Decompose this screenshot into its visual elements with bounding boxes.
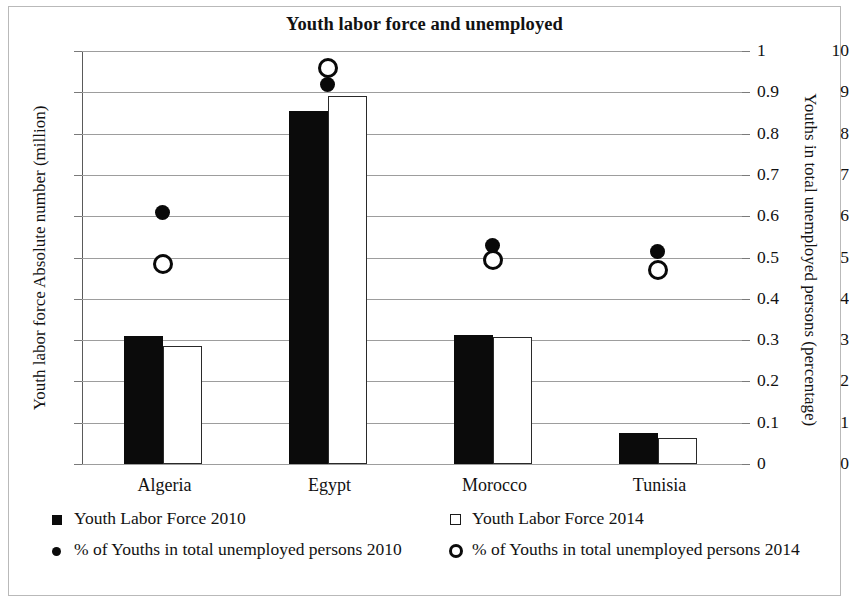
data-point-hollow-circle <box>153 254 173 274</box>
y-axis-left-tick-label: 8 <box>783 125 849 143</box>
chart-legend: Youth Labor Force 2010 Youth Labor Force… <box>52 508 812 592</box>
bar <box>454 335 493 464</box>
chart-figure: Youth labor force and unemployed Youth l… <box>0 0 849 605</box>
bar <box>124 336 163 464</box>
y-axis-right-tick-label: 0.7 <box>757 166 779 184</box>
y-axis-right-tick-label: 0.6 <box>757 207 779 225</box>
y-axis-left-title: Youth labor force Absolute number (milli… <box>30 48 50 468</box>
y-axis-right-tick <box>742 423 750 424</box>
y-axis-right-tick <box>742 381 750 382</box>
y-axis-right-tick <box>742 51 750 52</box>
bar <box>328 96 367 464</box>
y-axis-right-tick <box>742 92 750 93</box>
x-axis-category-label: Algeria <box>85 475 245 496</box>
y-axis-left-tick-label: 2 <box>783 372 849 390</box>
y-axis-left-tick-label: 0 <box>783 455 849 473</box>
y-axis-right-tick-label: 0.3 <box>757 331 779 349</box>
y-axis-left-tick <box>74 134 82 135</box>
y-axis-left-tick-label: 3 <box>783 331 849 349</box>
gridline <box>82 51 742 52</box>
y-axis-left-tick <box>74 464 82 465</box>
y-axis-left-tick <box>74 340 82 341</box>
y-axis-right-tick-label: 0.1 <box>757 414 779 432</box>
y-axis-left-tick <box>74 175 82 176</box>
legend-item-percent-2014: % of Youths in total unemployed persons … <box>450 539 800 560</box>
y-axis-left-tick <box>74 381 82 382</box>
bar <box>658 438 697 464</box>
y-axis-right-tick-label: 0.4 <box>757 290 779 308</box>
y-axis-right-tick <box>742 340 750 341</box>
gridline <box>82 134 742 135</box>
y-axis-right-tick-label: 0.5 <box>757 249 779 267</box>
gridline <box>82 464 742 465</box>
legend-label: % of Youths in total unemployed persons … <box>74 539 402 560</box>
gridline <box>82 258 742 259</box>
y-axis-right-tick-label: 0.8 <box>757 125 779 143</box>
legend-label: % of Youths in total unemployed persons … <box>472 539 800 560</box>
y-axis-left-tick <box>74 423 82 424</box>
y-axis-left-tick-label: 1 <box>783 414 849 432</box>
data-point-filled-circle <box>485 238 500 253</box>
data-point-filled-circle <box>650 244 665 259</box>
data-point-hollow-circle <box>318 58 338 78</box>
y-axis-right-tick-label: 1 <box>757 42 766 60</box>
data-point-hollow-circle <box>648 260 668 280</box>
gridline <box>82 216 742 217</box>
gridline <box>82 340 742 341</box>
y-axis-right-tick <box>742 175 750 176</box>
data-point-filled-circle <box>320 77 335 92</box>
y-axis-right-tick <box>742 258 750 259</box>
y-axis-right-tick-label: 0.9 <box>757 83 779 101</box>
x-axis-category-label: Egypt <box>250 475 410 496</box>
y-axis-left-tick-label: 6 <box>783 207 849 225</box>
y-axis-left-tick-label: 5 <box>783 249 849 267</box>
y-axis-right-tick-label: 0 <box>757 455 766 473</box>
x-axis-category-label: Tunisia <box>580 475 740 496</box>
gridline <box>82 92 742 93</box>
plot-area <box>82 51 742 464</box>
y-axis-left-tick <box>74 92 82 93</box>
legend-item-percent-2010: % of Youths in total unemployed persons … <box>52 539 402 560</box>
gridline <box>82 175 742 176</box>
x-axis-category-label: Morocco <box>415 475 575 496</box>
gridline <box>82 299 742 300</box>
y-axis-left-tick <box>74 51 82 52</box>
y-axis-left-tick <box>74 258 82 259</box>
bar <box>619 433 658 464</box>
y-axis-left-tick <box>74 216 82 217</box>
y-axis-right-tick <box>742 216 750 217</box>
bar <box>493 337 532 464</box>
legend-label: Youth Labor Force 2010 <box>74 508 246 529</box>
y-axis-left-tick-label: 10 <box>783 42 849 60</box>
y-axis-left-tick <box>74 299 82 300</box>
y-axis-left-tick-label: 7 <box>783 166 849 184</box>
y-axis-left-tick-label: 4 <box>783 290 849 308</box>
y-axis-left-tick-label: 9 <box>783 83 849 101</box>
y-axis-right-tick <box>742 299 750 300</box>
data-point-filled-circle <box>155 205 170 220</box>
legend-item-labor-force-2014: Youth Labor Force 2014 <box>450 508 644 529</box>
bar <box>289 111 328 464</box>
chart-title: Youth labor force and unemployed <box>0 14 849 35</box>
y-axis-right-tick <box>742 464 750 465</box>
legend-item-labor-force-2010: Youth Labor Force 2010 <box>52 508 246 529</box>
legend-label: Youth Labor Force 2014 <box>472 508 644 529</box>
y-axis-right-tick-label: 0.2 <box>757 372 779 390</box>
y-axis-right-tick <box>742 134 750 135</box>
bar <box>163 346 202 464</box>
